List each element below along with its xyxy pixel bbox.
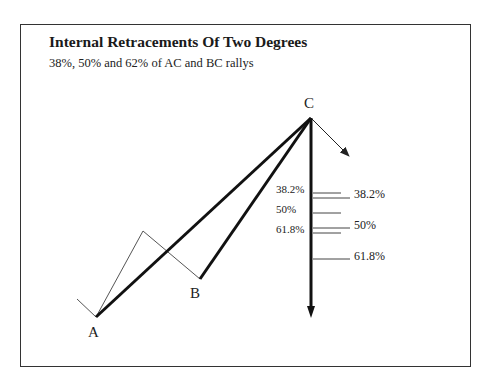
point-label-a: A [88, 324, 99, 340]
bc-rally-line [200, 118, 311, 279]
axis-arrowhead-icon [307, 306, 315, 318]
ac-rally-line [96, 118, 311, 317]
bc-level-62-label: 61.8% [276, 223, 304, 235]
bc-level-38-label: 38.2% [276, 183, 304, 195]
ac-level-62-label: 61.8% [354, 249, 385, 263]
ac-level-38-label: 38.2% [354, 187, 385, 201]
retracement-diagram: A B C 38.2% 50% 61.8% 38.2% 50% 61.8% [0, 0, 492, 383]
bc-level-50-label: 50% [276, 203, 296, 215]
minor-wave-path [77, 231, 200, 317]
ac-level-50-label: 50% [354, 218, 376, 232]
point-label-b: B [190, 285, 200, 301]
decline-direction-arrow [311, 118, 349, 156]
point-label-c: C [304, 95, 314, 111]
